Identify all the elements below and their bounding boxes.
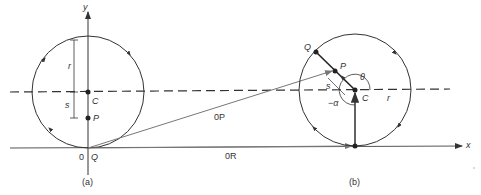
x-axis-label: x [466, 141, 471, 150]
point-p-b [333, 69, 338, 74]
op-label: 0P [214, 113, 225, 122]
point-r-b [353, 144, 358, 149]
point-c-b [353, 88, 358, 93]
caption-b: (b) [349, 178, 360, 187]
theta-label: θ [360, 73, 365, 82]
alpha-label: −α [328, 99, 338, 108]
s-label-a: s [65, 101, 70, 110]
p-label-b: P [340, 62, 346, 71]
point-c-a [86, 90, 91, 95]
or-label: 0R [225, 152, 237, 161]
center-line-dashed [10, 89, 450, 92]
caption-a: (a) [82, 178, 93, 187]
origin-label: 0 [79, 153, 84, 162]
point-q-b [314, 50, 319, 55]
q-label-b: Q [304, 43, 311, 52]
s-label-b: s [326, 82, 331, 91]
q-label-a: Q [91, 153, 98, 162]
r-label-a: r [68, 62, 71, 71]
vector-0p [88, 71, 332, 148]
cycloid-diagram [0, 0, 481, 195]
c-label-b: C [362, 94, 369, 103]
y-axis-label: y [83, 3, 88, 12]
r-label-b: r [387, 94, 390, 103]
p-label-a: P [93, 114, 99, 123]
c-label-a: C [92, 97, 99, 106]
point-p-a [86, 116, 91, 121]
